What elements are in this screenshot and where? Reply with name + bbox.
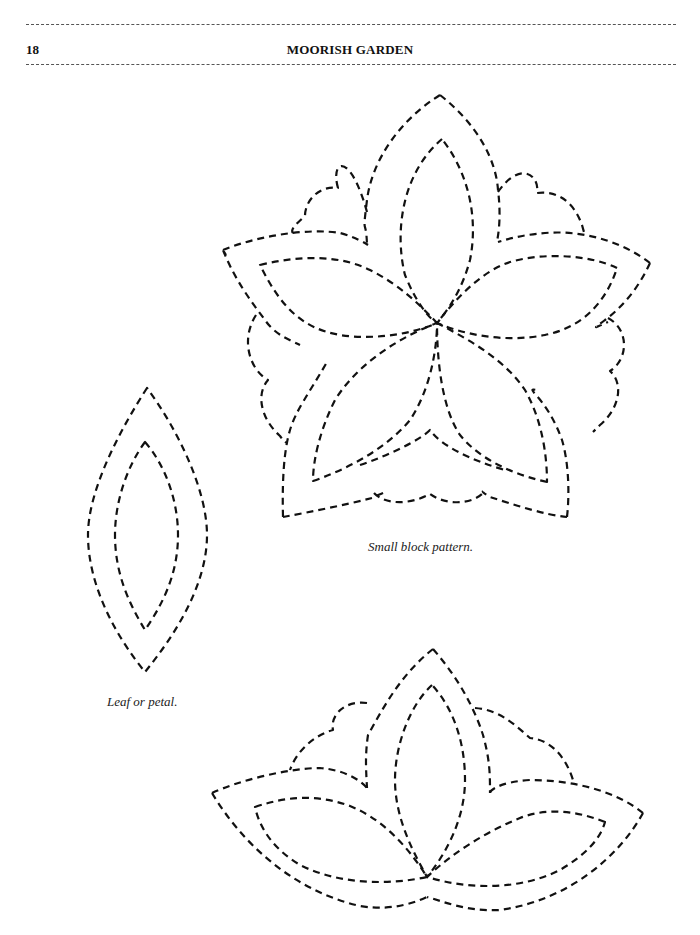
leaf-or-petal-figure	[88, 388, 207, 672]
small-block-pattern-figure	[223, 95, 650, 517]
quilting-patterns	[0, 0, 700, 935]
caption-small-block-pattern: Small block pattern.	[368, 539, 473, 555]
lotus-pattern-figure	[212, 649, 643, 910]
caption-leaf-or-petal: Leaf or petal.	[107, 694, 177, 710]
